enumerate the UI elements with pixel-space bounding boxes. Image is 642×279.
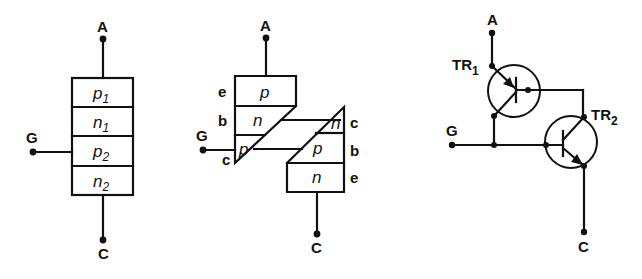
cathode-terminal-dot xyxy=(100,237,107,244)
transistor-tr2: TR2 xyxy=(543,106,618,169)
tr2-envelope xyxy=(545,116,597,168)
four-layer-model: A p1 n1 p2 n2 G C xyxy=(26,18,133,262)
gate-junction-node xyxy=(491,142,497,148)
upper-layer-p2: p xyxy=(238,140,248,159)
layer-n2-label: n2 xyxy=(93,172,109,194)
cathode-terminal-dot xyxy=(314,231,321,238)
anode-label: A xyxy=(487,11,498,28)
gate-label: G xyxy=(196,127,208,144)
upper-base-label: b xyxy=(218,112,227,129)
cathode-terminal-dot xyxy=(581,229,587,235)
cathode-label: C xyxy=(311,239,322,256)
lower-base-label: b xyxy=(350,142,359,159)
gate-label: G xyxy=(26,129,38,146)
layer-p1-label: p1 xyxy=(92,84,109,106)
anode-label: A xyxy=(260,17,271,34)
cathode-label: C xyxy=(98,245,109,262)
cathode-label: C xyxy=(578,238,589,255)
lower-layer-p: p xyxy=(312,139,322,158)
gate-label: G xyxy=(446,122,458,139)
upper-layer-n: n xyxy=(253,111,262,130)
lower-emitter-label: e xyxy=(350,169,358,186)
tr1-collector xyxy=(494,92,516,116)
tr2-base-node xyxy=(543,142,549,148)
transistor-tr1: TR1 xyxy=(452,56,583,119)
upper-emitter-label: e xyxy=(218,83,226,100)
lower-layer-n2: n xyxy=(312,168,321,187)
tr2-collector-node xyxy=(581,114,587,120)
anode-label: A xyxy=(97,18,108,35)
thyristor-diagram: A p1 n1 p2 n2 G C A p n p e b c xyxy=(0,0,642,279)
tr2-label: TR2 xyxy=(591,106,618,128)
lower-layer-n: n xyxy=(331,114,340,133)
two-transistor-structure: A p n p e b c n p n c b e G C xyxy=(196,17,359,256)
layer-p2-label: p2 xyxy=(92,142,109,164)
tr2-collector xyxy=(563,117,584,140)
layer-n1-label: n1 xyxy=(93,113,109,135)
lower-collector-label: c xyxy=(350,114,358,131)
upper-layer-p: p xyxy=(259,83,269,102)
upper-collector-label: c xyxy=(222,151,230,168)
equivalent-circuit: A TR1 G xyxy=(446,11,618,255)
tr1-base-node xyxy=(525,87,531,93)
tr1-label: TR1 xyxy=(452,56,479,78)
